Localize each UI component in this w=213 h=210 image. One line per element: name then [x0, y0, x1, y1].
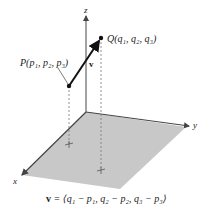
vector-v-label: v — [89, 59, 94, 69]
x-axis-label: x — [12, 176, 17, 186]
p-leader-line — [58, 68, 68, 84]
vector-v — [69, 41, 99, 86]
point-q-label: Q(q₁, q₂, q₃) — [107, 33, 157, 45]
point-q — [99, 36, 103, 40]
point-p — [67, 84, 71, 88]
vector-diagram: z y x Q(q₁, q₂, q₃) P(p₁, p₂, p₃) v v = … — [0, 0, 213, 210]
point-p-label: P(p₁, p₂, p₃) — [19, 57, 69, 69]
caption-rhs: = ⟨q₁ − p₁, q₂ − p₂, q₃ − p₃⟩ — [51, 193, 167, 204]
y-axis-label: y — [192, 120, 197, 130]
z-axis-label: z — [83, 5, 88, 15]
caption: v = ⟨q₁ − p₁, q₂ − p₂, q₃ − p₃⟩ — [46, 193, 167, 204]
